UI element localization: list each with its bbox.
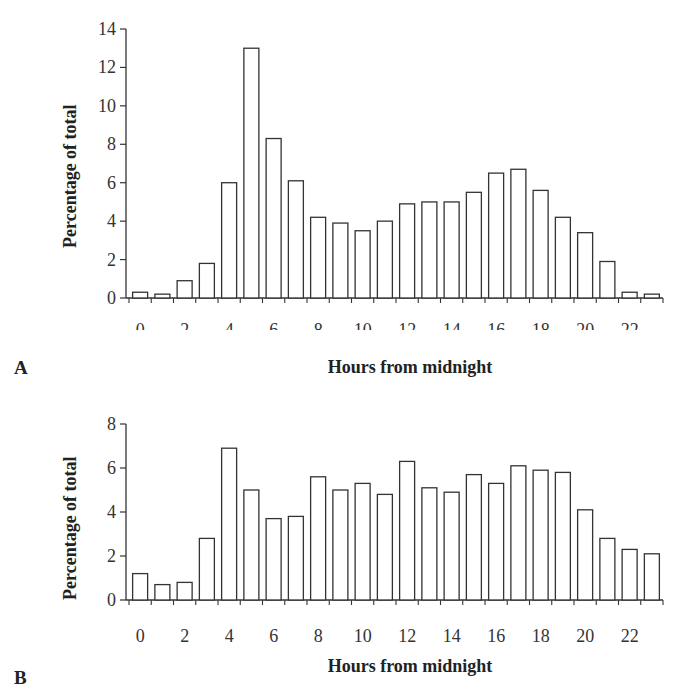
bar [622, 549, 637, 600]
bar [644, 554, 659, 600]
bar [288, 516, 303, 600]
panel-b: 024680246810121416182022 Percentage of t… [0, 0, 690, 698]
bar-chart-b: 024680246810121416182022 [0, 0, 690, 650]
x-tick-label: 8 [314, 626, 323, 646]
bar [600, 538, 615, 600]
bar [377, 494, 392, 600]
bar [489, 483, 504, 600]
bar [244, 490, 259, 600]
bar [155, 585, 170, 600]
bar [266, 519, 281, 600]
bar [311, 477, 326, 600]
x-tick-label: 16 [487, 626, 505, 646]
bar [199, 538, 214, 600]
bar [400, 461, 415, 600]
y-tick-label: 4 [107, 502, 116, 522]
x-tick-label: 20 [576, 626, 594, 646]
bar [177, 582, 192, 600]
y-tick-label: 6 [107, 458, 116, 478]
bar [511, 466, 526, 600]
y-tick-label: 8 [107, 414, 116, 434]
x-tick-label: 22 [621, 626, 639, 646]
y-tick-label: 0 [107, 590, 116, 610]
bar [466, 475, 481, 600]
x-tick-label: 2 [180, 626, 189, 646]
x-tick-label: 14 [443, 626, 461, 646]
bar [333, 490, 348, 600]
bar [578, 510, 593, 600]
x-axis-label-b: Hours from midnight [210, 656, 610, 677]
panel-letter-b: B [14, 667, 27, 689]
x-tick-label: 0 [136, 626, 145, 646]
x-tick-label: 18 [532, 626, 550, 646]
bar [355, 483, 370, 600]
bar [222, 448, 237, 600]
x-tick-label: 4 [225, 626, 234, 646]
bar [444, 492, 459, 600]
y-axis-label-b: Percentage of total [60, 456, 81, 600]
bar [533, 470, 548, 600]
x-tick-label: 6 [269, 626, 278, 646]
bar [422, 488, 437, 600]
x-tick-label: 12 [398, 626, 416, 646]
bar [133, 574, 148, 600]
bar [555, 472, 570, 600]
y-tick-label: 2 [107, 546, 116, 566]
x-tick-label: 10 [354, 626, 372, 646]
